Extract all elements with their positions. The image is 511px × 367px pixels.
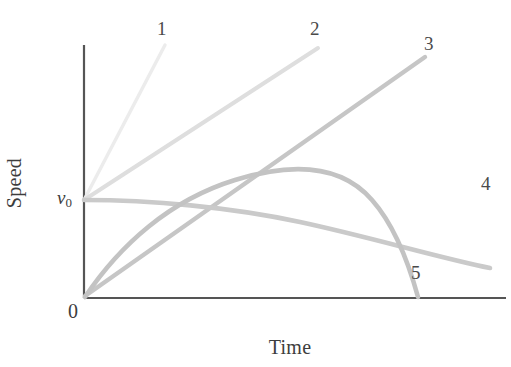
curve-label-1: 1: [157, 19, 167, 38]
v-zero-tick-label: v0: [57, 188, 72, 209]
curve-4-path: [84, 200, 490, 268]
curve-label-2: 2: [310, 19, 320, 38]
curve-1-path: [84, 45, 165, 200]
v-zero-subscript: 0: [65, 195, 72, 210]
curve-label-4: 4: [481, 174, 491, 193]
curve-2-path: [84, 48, 318, 200]
curve-5-path: [85, 169, 418, 297]
origin-label: 0: [68, 301, 78, 321]
curve-label-3: 3: [424, 34, 434, 53]
y-axis-title: Speed: [4, 128, 30, 238]
speed-vs-time-figure: Speed Time 0 v0 1 2 3 4 5: [0, 0, 511, 367]
curve-label-5: 5: [411, 263, 421, 282]
x-axis-title: Time: [240, 337, 340, 357]
